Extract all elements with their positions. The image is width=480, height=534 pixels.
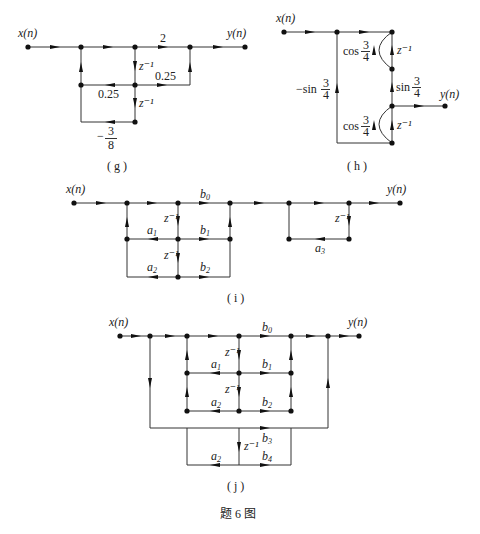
h-delay-1: z⁻¹ <box>396 43 412 57</box>
h-output-label: y(n) <box>439 87 459 101</box>
j-input-label: x(n) <box>108 315 128 329</box>
h-input-label: x(n) <box>275 11 295 25</box>
j-delay-2: z⁻¹ <box>224 382 240 396</box>
g-input-label: x(n) <box>17 26 37 40</box>
h-caption: ( h ) <box>347 159 367 173</box>
g-gain-bottom-sign: − <box>97 129 104 143</box>
i-delay-1: z⁻¹ <box>163 211 179 225</box>
svg-text:4: 4 <box>363 50 369 64</box>
svg-text:4: 4 <box>414 86 420 100</box>
i-gain-b1: b1 <box>200 223 210 238</box>
j-gain-a2: a2 <box>211 395 221 410</box>
g-delay-2: z⁻¹ <box>138 96 154 110</box>
j-delay-1: z⁻¹ <box>224 345 240 359</box>
j-output-label: y(n) <box>347 315 367 329</box>
i-caption: ( i ) <box>227 291 244 305</box>
j-gain-b3: b3 <box>262 431 272 446</box>
diagram-g: x(n) y(n) 2 z⁻¹ z⁻¹ 0.25 0.25 − 3 8 ( g … <box>17 26 248 173</box>
svg-text:4: 4 <box>323 88 329 102</box>
g-gain-left: 0.25 <box>98 87 119 101</box>
j-gain-a1: a1 <box>211 357 221 372</box>
j-gain-b2: b2 <box>262 395 272 410</box>
h-cos-upper: cos <box>343 44 359 58</box>
j-delay-3: z⁻¹ <box>243 439 259 453</box>
diagram-j: x(n) y(n) b0 z⁻¹ a1 b1 z⁻¹ a2 b2 b3 z⁻¹ … <box>108 315 367 493</box>
i-gain-b2: b2 <box>200 260 210 275</box>
h-cos-lower: cos <box>343 119 359 133</box>
g-gain-bottom-den: 8 <box>108 138 114 152</box>
g-gain-2: 2 <box>160 31 166 45</box>
g-gain-right: 0.25 <box>155 69 176 83</box>
i-delay-3: z⁻¹ <box>334 211 350 225</box>
i-input-label: x(n) <box>65 182 85 196</box>
diagram-i: x(n) y(n) b0 z⁻¹ a1 b1 z⁻¹ a2 b2 z⁻¹ a3 … <box>65 182 406 305</box>
i-delay-2: z⁻¹ <box>163 248 179 262</box>
j-gain-b4: b4 <box>262 449 272 464</box>
g-caption: ( g ) <box>107 159 127 173</box>
i-output-label: y(n) <box>386 182 406 196</box>
i-gain-a3: a3 <box>315 241 325 256</box>
signal-flow-figure: x(n) y(n) 2 z⁻¹ z⁻¹ 0.25 0.25 − 3 8 ( g … <box>0 0 480 534</box>
g-output-label: y(n) <box>226 26 246 40</box>
h-neg-sin-left: −sin <box>296 82 317 96</box>
i-gain-a1: a1 <box>147 223 157 238</box>
svg-text:4: 4 <box>363 125 369 139</box>
g-delay-1: z⁻¹ <box>138 59 154 73</box>
j-gain-b1: b1 <box>262 357 272 372</box>
j-gain-b0: b0 <box>262 320 272 335</box>
j-gain-a2-lower: a2 <box>211 449 221 464</box>
h-delay-2: z⁻¹ <box>396 118 412 132</box>
diagram-h: x(n) y(n) cos 3 4 z⁻¹ sin 3 4 −sin 3 4 c… <box>275 11 459 173</box>
i-gain-a2: a2 <box>147 260 157 275</box>
j-caption: ( j ) <box>227 479 244 493</box>
g-gain-bottom-num: 3 <box>108 124 114 138</box>
figure-caption: 题 6 图 <box>220 507 256 521</box>
i-gain-b0: b0 <box>200 187 210 202</box>
h-sin-middle: sin <box>396 80 410 94</box>
